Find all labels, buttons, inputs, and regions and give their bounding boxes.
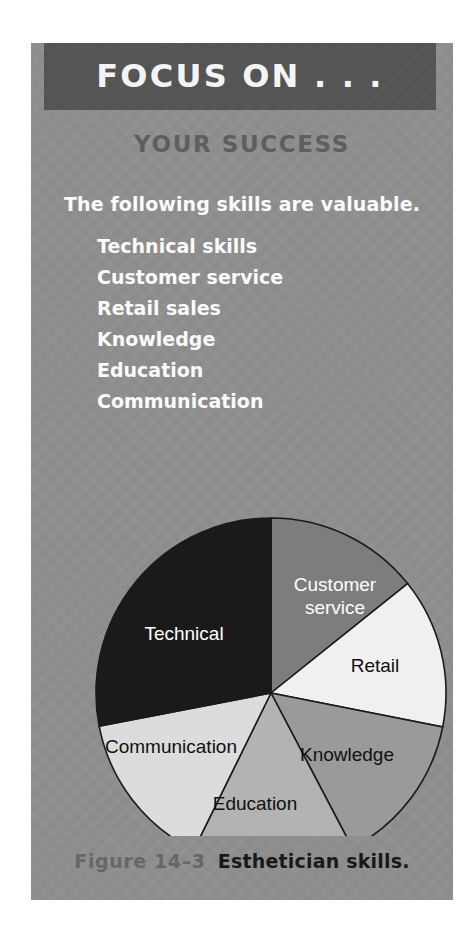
pie-chart: CustomerserviceRetailKnowledgeEducationC… xyxy=(31,436,453,836)
figure-caption: Figure 14–3 Esthetician skills. xyxy=(31,850,453,872)
list-item: Education xyxy=(97,355,283,386)
pie-slice-label: Retail xyxy=(351,655,400,676)
focus-header-title: FOCUS ON . . . xyxy=(96,60,383,94)
figure-number: Figure 14–3 xyxy=(74,850,205,872)
focus-on-panel: FOCUS ON . . . YOUR SUCCESS The followin… xyxy=(31,43,453,900)
focus-header-bar: FOCUS ON . . . xyxy=(44,43,436,110)
skill-list: Technical skills Customer service Retail… xyxy=(97,231,283,417)
list-item: Knowledge xyxy=(97,324,283,355)
focus-intro-text: The following skills are valuable. xyxy=(31,193,453,215)
list-item: Communication xyxy=(97,386,283,417)
pie-slice-label: Education xyxy=(213,793,298,814)
pie-slice-label: Communication xyxy=(105,736,237,757)
pie-slice-group xyxy=(96,518,446,836)
figure-caption-text: Esthetician skills. xyxy=(218,850,410,872)
list-item: Technical skills xyxy=(97,231,283,262)
focus-subtitle: YOUR SUCCESS xyxy=(31,131,453,157)
list-item: Customer service xyxy=(97,262,283,293)
pie-slice-label: Technical xyxy=(144,623,223,644)
list-item: Retail sales xyxy=(97,293,283,324)
pie-slice-label: Knowledge xyxy=(300,744,394,765)
pie-chart-svg: CustomerserviceRetailKnowledgeEducationC… xyxy=(31,436,453,836)
